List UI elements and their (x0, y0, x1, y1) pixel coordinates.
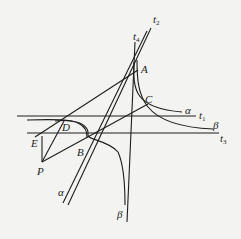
label-t4: t4 (133, 31, 140, 44)
label-t1: t1 (199, 110, 206, 123)
label-alpha-lower: α (58, 187, 64, 198)
label-t3: t3 (220, 133, 227, 146)
label-point-P: P (37, 166, 44, 177)
label-beta-lower: β (117, 209, 122, 220)
line-AE (35, 70, 138, 137)
label-alpha-upper: α (185, 105, 191, 116)
label-beta-upper: β (213, 120, 218, 131)
label-t2: t2 (153, 14, 160, 27)
label-point-A: A (141, 64, 148, 75)
label-point-C: C (145, 94, 152, 105)
label-point-E: E (31, 138, 38, 149)
label-point-B: B (77, 147, 84, 158)
diagram-canvas: t2 t4 A C α t1 β t3 D E B P α β (0, 0, 241, 239)
label-point-D: D (62, 122, 70, 133)
